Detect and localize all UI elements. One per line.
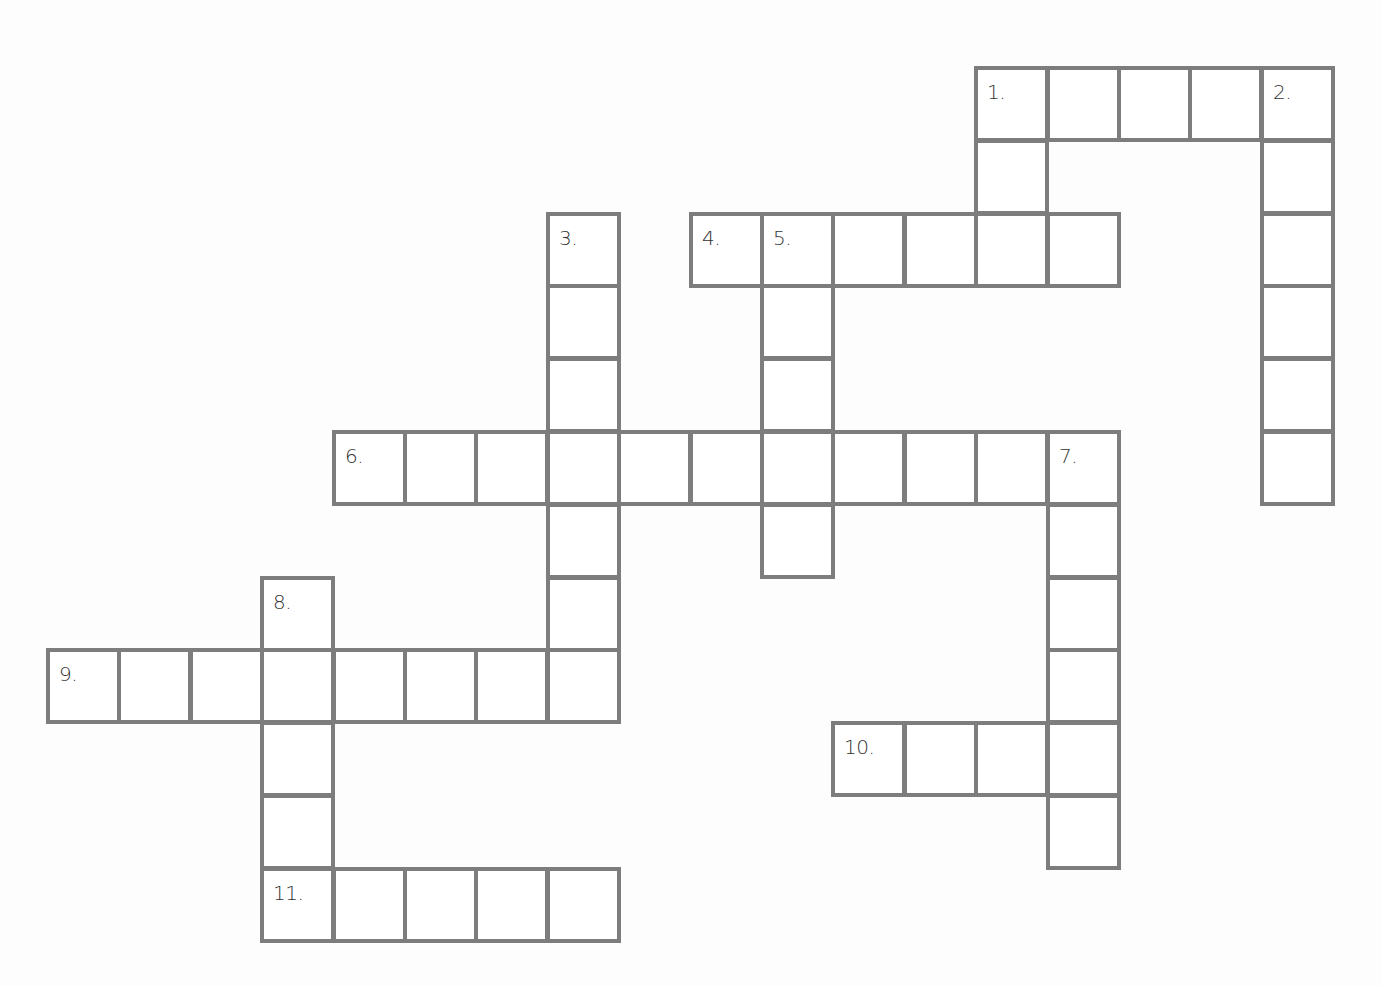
cell-letter-input[interactable]: [907, 725, 974, 793]
cell-letter-input[interactable]: [1264, 143, 1331, 211]
cell-letter-input[interactable]: [478, 434, 545, 502]
crossword-cell[interactable]: [546, 357, 621, 433]
crossword-cell[interactable]: [903, 212, 978, 288]
crossword-cell[interactable]: [546, 284, 621, 360]
cell-letter-input[interactable]: [1050, 507, 1117, 575]
cell-letter-input[interactable]: [264, 798, 331, 866]
cell-letter-input[interactable]: [264, 725, 331, 793]
cell-letter-input[interactable]: [693, 434, 760, 502]
crossword-cell[interactable]: 2.: [1260, 66, 1335, 142]
crossword-cell[interactable]: [546, 648, 621, 724]
crossword-cell[interactable]: [831, 212, 906, 288]
crossword-cell[interactable]: 11.: [260, 867, 335, 943]
crossword-cell[interactable]: 8.: [260, 576, 335, 652]
crossword-cell[interactable]: 5.: [760, 212, 835, 288]
cell-letter-input[interactable]: [1050, 434, 1117, 502]
crossword-cell[interactable]: [903, 430, 978, 506]
cell-letter-input[interactable]: [550, 580, 617, 648]
crossword-cell[interactable]: [1117, 66, 1192, 142]
crossword-cell[interactable]: [546, 503, 621, 579]
crossword-cell[interactable]: [260, 648, 335, 724]
crossword-cell[interactable]: [260, 721, 335, 797]
cell-letter-input[interactable]: [264, 871, 331, 939]
crossword-cell[interactable]: [1260, 430, 1335, 506]
cell-letter-input[interactable]: [1050, 798, 1117, 866]
crossword-cell[interactable]: [1046, 794, 1121, 870]
cell-letter-input[interactable]: [550, 216, 617, 284]
cell-letter-input[interactable]: [1050, 580, 1117, 648]
crossword-cell[interactable]: 7.: [1046, 430, 1121, 506]
cell-letter-input[interactable]: [1264, 70, 1331, 138]
cell-letter-input[interactable]: [978, 725, 1045, 793]
crossword-cell[interactable]: 1.: [974, 66, 1049, 142]
cell-letter-input[interactable]: [264, 652, 331, 720]
cell-letter-input[interactable]: [764, 434, 831, 502]
cell-letter-input[interactable]: [907, 216, 974, 284]
crossword-cell[interactable]: [332, 867, 407, 943]
crossword-cell[interactable]: [974, 139, 1049, 215]
cell-letter-input[interactable]: [1192, 70, 1259, 138]
crossword-cell[interactable]: [474, 430, 549, 506]
crossword-cell[interactable]: [760, 503, 835, 579]
crossword-cell[interactable]: 4.: [689, 212, 764, 288]
crossword-cell[interactable]: [1260, 357, 1335, 433]
crossword-cell[interactable]: [689, 430, 764, 506]
cell-letter-input[interactable]: [835, 434, 902, 502]
crossword-cell[interactable]: [760, 284, 835, 360]
cell-letter-input[interactable]: [550, 361, 617, 429]
cell-letter-input[interactable]: [550, 871, 617, 939]
crossword-cell[interactable]: 9.: [46, 648, 121, 724]
cell-letter-input[interactable]: [1264, 288, 1331, 356]
cell-letter-input[interactable]: [1050, 652, 1117, 720]
crossword-cell[interactable]: [617, 430, 692, 506]
cell-letter-input[interactable]: [121, 652, 188, 720]
crossword-cell[interactable]: [1260, 212, 1335, 288]
cell-letter-input[interactable]: [1050, 216, 1117, 284]
crossword-cell[interactable]: [760, 357, 835, 433]
crossword-cell[interactable]: [1046, 212, 1121, 288]
cell-letter-input[interactable]: [693, 216, 760, 284]
crossword-cell[interactable]: [1046, 66, 1121, 142]
crossword-cell[interactable]: [117, 648, 192, 724]
crossword-cell[interactable]: [1046, 648, 1121, 724]
cell-letter-input[interactable]: [1050, 70, 1117, 138]
cell-letter-input[interactable]: [336, 871, 403, 939]
crossword-cell[interactable]: [1260, 284, 1335, 360]
cell-letter-input[interactable]: [264, 580, 331, 648]
crossword-cell[interactable]: [831, 430, 906, 506]
cell-letter-input[interactable]: [621, 434, 688, 502]
cell-letter-input[interactable]: [978, 70, 1045, 138]
crossword-cell[interactable]: [403, 430, 478, 506]
cell-letter-input[interactable]: [478, 652, 545, 720]
cell-letter-input[interactable]: [336, 434, 403, 502]
crossword-cell[interactable]: [1188, 66, 1263, 142]
crossword-cell[interactable]: [332, 648, 407, 724]
cell-letter-input[interactable]: [978, 143, 1045, 211]
crossword-cell[interactable]: [474, 867, 549, 943]
crossword-cell[interactable]: [760, 430, 835, 506]
crossword-cell[interactable]: [974, 430, 1049, 506]
crossword-cell[interactable]: [1046, 721, 1121, 797]
crossword-cell[interactable]: [546, 430, 621, 506]
cell-letter-input[interactable]: [835, 725, 902, 793]
cell-letter-input[interactable]: [1121, 70, 1188, 138]
cell-letter-input[interactable]: [550, 288, 617, 356]
cell-letter-input[interactable]: [1264, 216, 1331, 284]
crossword-cell[interactable]: [546, 867, 621, 943]
crossword-cell[interactable]: [1260, 139, 1335, 215]
crossword-cell[interactable]: [1046, 576, 1121, 652]
crossword-cell[interactable]: [403, 648, 478, 724]
crossword-cell[interactable]: [903, 721, 978, 797]
cell-letter-input[interactable]: [407, 434, 474, 502]
crossword-cell[interactable]: [474, 648, 549, 724]
cell-letter-input[interactable]: [407, 652, 474, 720]
cell-letter-input[interactable]: [978, 216, 1045, 284]
cell-letter-input[interactable]: [764, 288, 831, 356]
cell-letter-input[interactable]: [764, 507, 831, 575]
crossword-cell[interactable]: [974, 721, 1049, 797]
cell-letter-input[interactable]: [907, 434, 974, 502]
cell-letter-input[interactable]: [550, 434, 617, 502]
cell-letter-input[interactable]: [550, 507, 617, 575]
cell-letter-input[interactable]: [764, 216, 831, 284]
cell-letter-input[interactable]: [407, 871, 474, 939]
